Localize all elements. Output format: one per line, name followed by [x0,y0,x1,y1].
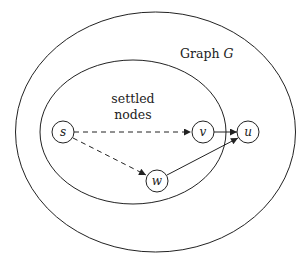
node-s: s [52,121,74,143]
edge-w-u [167,138,238,175]
node-u-label: u [244,125,252,139]
settled-label-line1: settled [111,91,154,106]
shortest-path-diagram: Graph G settled nodes s v u w [0,0,308,261]
graph-label: Graph G [180,46,233,61]
edge-s-w [73,138,146,175]
settled-label-line2: nodes [114,107,151,122]
node-w-label: w [152,174,163,188]
node-u: u [237,121,259,143]
node-w: w [146,170,168,192]
node-v-label: v [200,125,207,139]
node-s-label: s [60,125,66,139]
node-v: v [192,121,214,143]
